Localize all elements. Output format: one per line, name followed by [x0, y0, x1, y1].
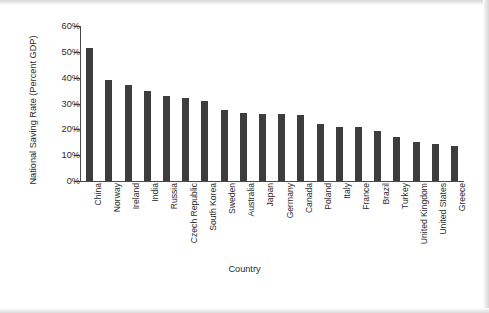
x-tick-label: Brazil	[381, 183, 391, 205]
bar	[336, 127, 343, 181]
x-tick-label-wrap: China	[90, 183, 100, 205]
bar	[125, 85, 132, 181]
x-tick-label: Italy	[342, 183, 352, 199]
x-tick-label: United States	[438, 183, 448, 235]
x-tick-label-wrap: Australia	[243, 183, 253, 216]
x-tick-label: South Korea	[208, 183, 218, 231]
bar	[355, 127, 362, 181]
x-tick-label: Poland	[323, 183, 333, 210]
x-tick-label: China	[93, 183, 103, 205]
bar	[221, 110, 228, 181]
y-tick-label: 0%	[44, 176, 80, 186]
y-tick-label: 20%	[44, 124, 80, 134]
y-tick-label: 30%	[44, 99, 80, 109]
bar	[451, 146, 458, 181]
bar	[201, 101, 208, 181]
x-tick-label-wrap: South Korea	[205, 183, 215, 231]
x-tick-label: Russia	[169, 183, 179, 209]
y-tick-label: 50%	[44, 47, 80, 57]
x-axis-tick-labels: ChinaNorwayIrelandIndiaRussiaCzech Repub…	[80, 183, 464, 255]
bar	[144, 91, 151, 181]
x-tick-label-wrap: Japan	[262, 183, 272, 206]
x-tick-label-wrap: Canada	[301, 183, 311, 213]
bar-series	[80, 26, 464, 181]
bar	[259, 114, 266, 181]
figure-canvas: National Saving Rate (Percent GDP) 0%10%…	[0, 0, 489, 313]
x-tick-label-wrap: Turkey	[397, 183, 407, 209]
bar	[86, 48, 93, 181]
y-tick-label: 60%	[44, 21, 80, 31]
x-tick-label: Czech Republic	[189, 183, 199, 243]
x-tick-label-wrap: Norway	[109, 183, 119, 212]
x-tick-label: Japan	[265, 183, 275, 206]
x-tick-label: France	[361, 183, 371, 210]
y-tick-label: 40%	[44, 73, 80, 83]
bar	[317, 124, 324, 181]
y-axis-title: National Saving Rate (Percent GDP)	[28, 15, 38, 205]
x-tick-label: Norway	[112, 183, 122, 212]
x-tick-label-wrap: France	[358, 183, 368, 210]
x-tick-label: Germany	[285, 183, 295, 218]
x-tick-label-wrap: India	[147, 183, 157, 202]
x-axis-title: Country	[0, 264, 489, 274]
bar	[374, 131, 381, 181]
x-tick-label-wrap: United States	[435, 183, 445, 235]
x-tick-label-wrap: Ireland	[128, 183, 138, 209]
bar	[432, 144, 439, 181]
x-tick-label: Australia	[246, 183, 256, 216]
x-tick-label-wrap: Czech Republic	[186, 183, 196, 243]
bar-chart: National Saving Rate (Percent GDP) 0%10%…	[0, 0, 489, 313]
x-tick-label-wrap: Sweden	[224, 183, 234, 214]
x-tick-label-wrap: Russia	[166, 183, 176, 209]
x-tick-label: Ireland	[131, 183, 141, 209]
bar	[105, 80, 112, 181]
x-tick-label-wrap: Brazil	[378, 183, 388, 205]
x-tick-label: Greece	[457, 183, 467, 211]
bar	[413, 142, 420, 181]
y-tick-label: 10%	[44, 150, 80, 160]
bar	[278, 114, 285, 181]
x-tick-label: India	[150, 183, 160, 202]
bar	[240, 113, 247, 181]
x-axis-line	[80, 181, 464, 182]
bar	[297, 115, 304, 181]
x-tick-label: Turkey	[400, 183, 410, 209]
x-tick-label-wrap: Poland	[320, 183, 330, 210]
x-tick-label: Sweden	[227, 183, 237, 214]
x-tick-label: United Kingdom	[419, 183, 429, 244]
x-tick-label-wrap: United Kingdom	[416, 183, 426, 244]
x-tick-label-wrap: Germany	[282, 183, 292, 218]
x-tick-label-wrap: Italy	[339, 183, 349, 199]
bar	[163, 96, 170, 181]
x-tick-label-wrap: Greece	[454, 183, 464, 211]
x-tick-label: Canada	[304, 183, 314, 213]
bar	[393, 137, 400, 181]
bar	[182, 98, 189, 181]
